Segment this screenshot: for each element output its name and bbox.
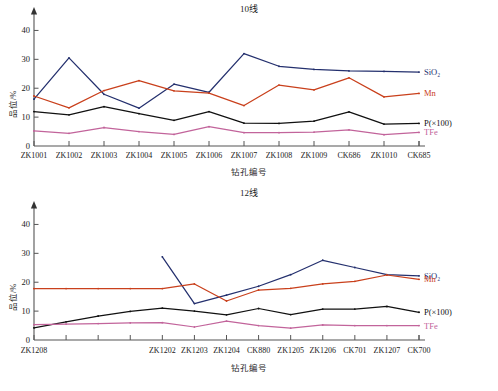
x-tick-label: ZK1206 xyxy=(309,346,336,355)
data-point xyxy=(322,283,324,285)
y-tick-label: 40 xyxy=(22,25,31,35)
data-point xyxy=(243,132,245,134)
data-point xyxy=(103,127,105,129)
x-tick-label: ZK1207 xyxy=(374,346,401,355)
data-point xyxy=(313,120,315,122)
figure-root: 10线 品位/% 010203040ZK1001ZK1002ZK1003ZK10… xyxy=(0,0,498,391)
x-tick-label: CK685 xyxy=(407,151,430,160)
x-tick-label: ZK1203 xyxy=(181,346,208,355)
data-point xyxy=(383,134,385,136)
data-point xyxy=(226,314,228,316)
data-point xyxy=(68,114,70,116)
data-point xyxy=(243,105,245,107)
data-point xyxy=(138,80,140,82)
data-point xyxy=(33,130,35,132)
data-point xyxy=(194,310,196,312)
x-tick-label: CK880 xyxy=(247,346,270,355)
x-tick-label: ZK1007 xyxy=(231,151,258,160)
x-tick-label: ZK1004 xyxy=(126,151,153,160)
data-point xyxy=(97,288,99,290)
data-point xyxy=(348,129,350,131)
x-tick-label: ZK1008 xyxy=(266,151,293,160)
plot-area-10line: 010203040ZK1001ZK1002ZK1003ZK1004ZK1005Z… xyxy=(0,0,498,180)
x-tick-label: ZK1205 xyxy=(277,346,304,355)
series-label-TFe: TFe xyxy=(424,321,438,331)
data-point xyxy=(386,325,388,327)
data-point xyxy=(348,70,350,72)
x-tick-label: CK701 xyxy=(343,346,366,355)
data-point xyxy=(354,267,356,269)
data-point xyxy=(33,95,35,97)
data-point xyxy=(173,119,175,121)
data-point xyxy=(208,111,210,113)
data-point xyxy=(290,327,292,329)
data-point xyxy=(103,90,105,92)
data-point xyxy=(418,275,420,277)
data-point xyxy=(313,69,315,71)
data-point xyxy=(383,123,385,125)
data-point xyxy=(68,57,70,59)
data-point xyxy=(354,280,356,282)
y-tick-label: 30 xyxy=(22,54,31,64)
data-point xyxy=(258,308,260,310)
data-point xyxy=(258,325,260,327)
data-point xyxy=(418,132,420,134)
y-tick-label: 20 xyxy=(22,277,31,287)
data-point xyxy=(161,307,163,309)
data-point xyxy=(226,300,228,302)
data-point xyxy=(129,288,131,290)
data-point xyxy=(226,320,228,322)
data-point xyxy=(161,256,163,258)
x-axis-label-12line: 钻孔编号 xyxy=(0,361,498,373)
data-point xyxy=(173,134,175,136)
x-tick-label: ZK1010 xyxy=(371,151,398,160)
series-line-TFe xyxy=(34,127,419,135)
series-line-TFe xyxy=(34,321,419,328)
data-point xyxy=(322,259,324,261)
data-point xyxy=(65,323,67,325)
data-point xyxy=(386,274,388,276)
data-point xyxy=(138,131,140,133)
data-point xyxy=(258,289,260,291)
data-point xyxy=(313,131,315,133)
chart-panel-12line: 12线 品位/% 010203040ZK1208ZK1202ZK1203ZK12… xyxy=(0,186,498,391)
data-point xyxy=(208,126,210,128)
data-point xyxy=(97,315,99,317)
x-tick-label: ZK1202 xyxy=(149,346,176,355)
data-point xyxy=(418,325,420,327)
data-point xyxy=(290,274,292,276)
data-point xyxy=(243,53,245,55)
data-point xyxy=(33,98,35,100)
x-tick-label: ZK1005 xyxy=(161,151,188,160)
y-tick-label: 10 xyxy=(22,306,31,316)
data-point xyxy=(383,96,385,98)
series-label-SiO2: SiO₂ xyxy=(424,67,440,77)
series-label-P: P(×100) xyxy=(424,307,452,317)
data-point xyxy=(138,107,140,109)
x-tick-label: ZK1208 xyxy=(21,346,48,355)
data-point xyxy=(33,288,35,290)
data-point xyxy=(68,132,70,134)
data-point xyxy=(418,71,420,73)
data-point xyxy=(138,113,140,115)
data-point xyxy=(348,77,350,79)
series-line-P xyxy=(34,306,419,327)
x-tick-label: ZK1006 xyxy=(196,151,223,160)
data-point xyxy=(97,323,99,325)
data-point xyxy=(313,89,315,91)
chart-panel-10line: 10线 品位/% 010203040ZK1001ZK1002ZK1003ZK10… xyxy=(0,0,498,196)
x-tick-label: ZK1204 xyxy=(213,346,240,355)
data-point xyxy=(208,92,210,94)
data-point xyxy=(68,107,70,109)
data-point xyxy=(348,111,350,113)
data-point xyxy=(354,325,356,327)
data-point xyxy=(290,287,292,289)
series-line-SiO2 xyxy=(162,257,419,304)
x-tick-label: CK686 xyxy=(337,151,360,160)
y-tick-label: 40 xyxy=(22,219,31,229)
y-tick-label: 10 xyxy=(22,112,31,122)
x-tick-label: ZK1003 xyxy=(91,151,118,160)
data-point xyxy=(418,123,420,125)
data-point xyxy=(418,93,420,95)
series-label-Mn: Mn xyxy=(424,88,437,98)
